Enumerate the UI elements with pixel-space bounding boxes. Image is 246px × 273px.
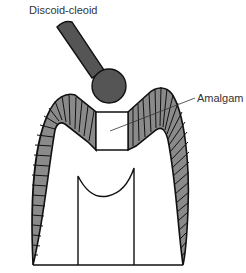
tooth-diagram <box>0 0 246 273</box>
instrument-ball-tip <box>92 69 126 103</box>
amalgam-label: Amalgam <box>197 92 243 104</box>
amalgam-restoration <box>96 112 128 150</box>
instrument-handle <box>57 22 104 78</box>
instrument-label: Discoid-cleoid <box>29 4 97 16</box>
